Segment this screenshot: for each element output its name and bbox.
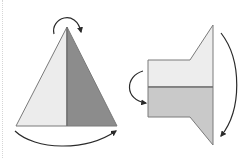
flip-arrow-left-icon [129, 71, 146, 103]
diagram-canvas [0, 0, 249, 158]
flared-shape-bottom-half [148, 87, 213, 145]
triangle-right-half [67, 27, 117, 126]
flip-arrow-bottom-icon [15, 131, 116, 146]
flared-shape-top-half [148, 25, 213, 87]
triangle-diagram [15, 18, 117, 146]
flared-shape-diagram [129, 25, 236, 145]
triangle-left-half [16, 27, 67, 126]
flip-arrow-right-icon [221, 33, 237, 136]
